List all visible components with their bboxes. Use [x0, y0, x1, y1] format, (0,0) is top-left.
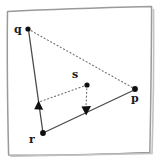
point-dot-r[interactable]	[40, 130, 46, 136]
point-label-s: s	[72, 69, 78, 80]
point-dot-s[interactable]	[84, 82, 89, 87]
point-label-r: r	[29, 134, 35, 145]
figure-canvas: q s p r	[0, 0, 160, 164]
point-label-p: p	[131, 93, 139, 104]
dotted-edge-q-p	[28, 29, 135, 89]
arrow-up-icon	[34, 101, 43, 110]
point-label-q: q	[14, 24, 22, 35]
solid-edge-r-p	[43, 90, 134, 133]
dotted-edge-s-to-arrow-up	[39, 85, 87, 102]
solid-edge-r-q	[29, 31, 43, 134]
vector-diagram-svg	[0, 0, 160, 164]
point-dot-q[interactable]	[25, 26, 30, 31]
dotted-edge-s-to-arrow-down	[86, 85, 87, 107]
